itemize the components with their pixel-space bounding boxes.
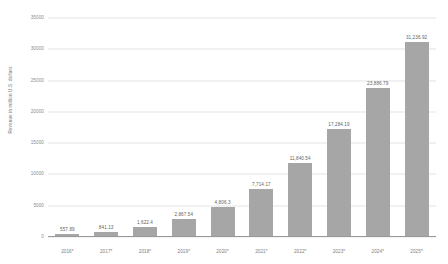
y-axis-tick-label: 10000 xyxy=(31,171,44,176)
x-tick-slot: 2022* xyxy=(281,239,320,257)
bar-slot: 23,886.79 xyxy=(358,18,397,237)
bar-slot: 2,867.54 xyxy=(164,18,203,237)
bar-series: 557.89841.131,622.42,867.544,806.37,714.… xyxy=(48,18,436,237)
bar-value-label: 11,840.54 xyxy=(290,156,311,161)
bar-slot: 7,714.17 xyxy=(242,18,281,237)
y-axis-tick-label: 0 xyxy=(41,234,44,239)
x-axis-tick-label: 2021* xyxy=(255,249,268,254)
x-tick-slot: 2017* xyxy=(87,239,126,257)
y-axis-tick-label: 35000 xyxy=(31,15,44,20)
x-axis-tick-label: 2025* xyxy=(410,249,423,254)
bar-slot: 1,622.4 xyxy=(126,18,165,237)
bar-value-label: 557.89 xyxy=(60,227,75,232)
y-axis-title: Revenue in million U.S. dollars xyxy=(8,40,13,160)
bar-value-label: 1,622.4 xyxy=(137,220,153,225)
x-tick-slot: 2019* xyxy=(164,239,203,257)
bar-value-label: 7,714.17 xyxy=(252,182,271,187)
bar-value-label: 4,806.3 xyxy=(215,200,231,205)
x-axis-tick-labels: 2016*2017*2018*2019*2020*2021*2022*2023*… xyxy=(48,239,436,257)
x-tick-slot: 2021* xyxy=(242,239,281,257)
x-axis-tick-label: 2020* xyxy=(216,249,229,254)
bar-slot: 17,284.19 xyxy=(320,18,359,237)
bar-slot: 4,806.3 xyxy=(203,18,242,237)
y-axis-tick-label: 30000 xyxy=(31,46,44,51)
x-axis-tick-label: 2023* xyxy=(333,249,346,254)
y-axis-tick-label: 5000 xyxy=(33,203,44,208)
x-axis-tick-label: 2018* xyxy=(139,249,152,254)
bar[interactable]: 4,806.3 xyxy=(211,207,235,237)
bar-slot: 557.89 xyxy=(48,18,87,237)
x-tick-slot: 2023* xyxy=(320,239,359,257)
plot-area: 05000100001500020000250003000035000 557.… xyxy=(48,18,436,237)
bar[interactable]: 23,886.79 xyxy=(366,88,390,237)
x-tick-slot: 2016* xyxy=(48,239,87,257)
bar-slot: 11,840.54 xyxy=(281,18,320,237)
bar-value-label: 2,867.54 xyxy=(174,212,193,217)
x-axis-tick-label: 2019* xyxy=(178,249,191,254)
bar-chart: Revenue in million U.S. dollars 05000100… xyxy=(0,0,448,264)
x-axis-tick-label: 2022* xyxy=(294,249,307,254)
bar-value-label: 841.13 xyxy=(99,225,114,230)
bar[interactable]: 7,714.17 xyxy=(249,189,273,237)
bar[interactable]: 11,840.54 xyxy=(288,163,312,237)
bar-value-label: 17,284.19 xyxy=(328,122,349,127)
x-axis-tick-label: 2024* xyxy=(372,249,385,254)
x-axis-line xyxy=(48,236,436,237)
bar[interactable]: 31,236.92 xyxy=(405,42,429,237)
y-axis-tick-label: 20000 xyxy=(31,109,44,114)
x-axis-tick-label: 2017* xyxy=(100,249,113,254)
bar[interactable]: 2,867.54 xyxy=(172,219,196,237)
bar-value-label: 31,236.92 xyxy=(406,35,427,40)
x-tick-slot: 2018* xyxy=(126,239,165,257)
x-tick-slot: 2025* xyxy=(397,239,436,257)
bar[interactable]: 17,284.19 xyxy=(327,129,351,237)
y-axis-tick-label: 25000 xyxy=(31,78,44,83)
bar-slot: 31,236.92 xyxy=(397,18,436,237)
bar-slot: 841.13 xyxy=(87,18,126,237)
x-tick-slot: 2020* xyxy=(203,239,242,257)
x-axis-tick-label: 2016* xyxy=(61,249,74,254)
bar-value-label: 23,886.79 xyxy=(367,81,388,86)
x-tick-slot: 2024* xyxy=(358,239,397,257)
y-axis-tick-label: 15000 xyxy=(31,140,44,145)
